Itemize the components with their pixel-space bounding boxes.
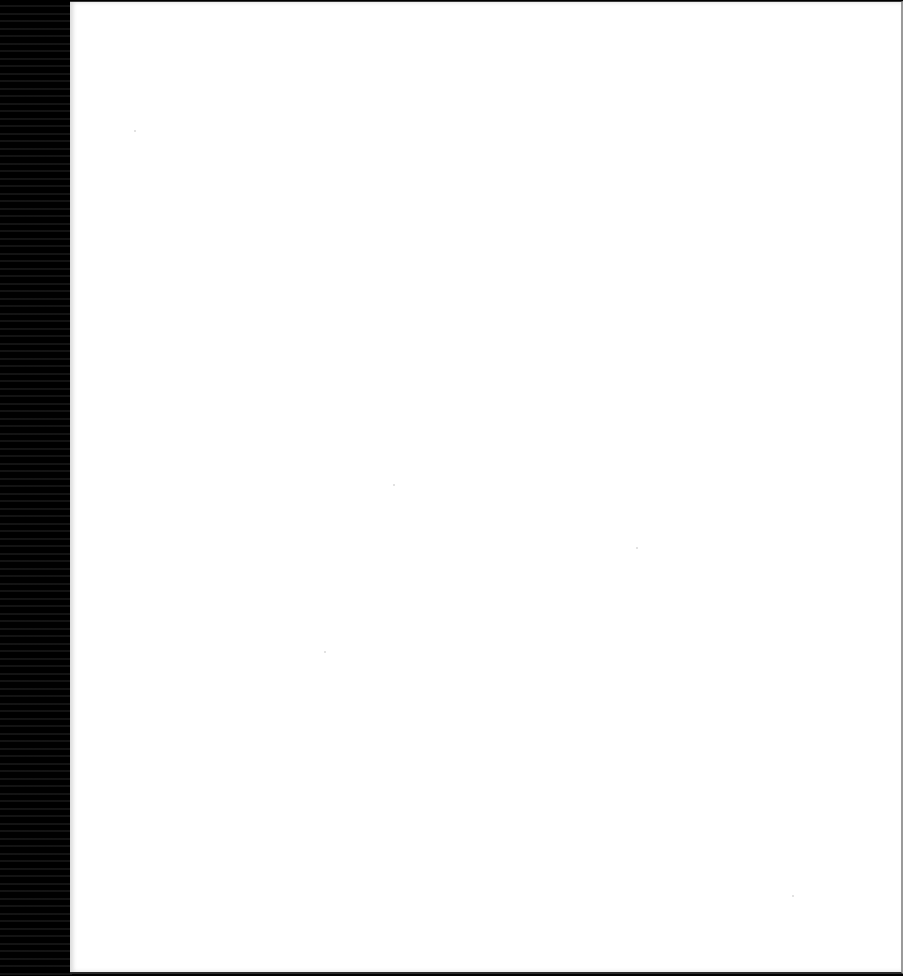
blank-page (70, 1, 903, 974)
scan-speck (393, 484, 395, 486)
scanned-document (0, 0, 903, 976)
scan-speck (324, 651, 326, 653)
scan-speck (792, 895, 794, 897)
scan-speck (636, 547, 638, 549)
scanner-edge-strip (0, 0, 72, 976)
scan-speck (134, 130, 136, 132)
